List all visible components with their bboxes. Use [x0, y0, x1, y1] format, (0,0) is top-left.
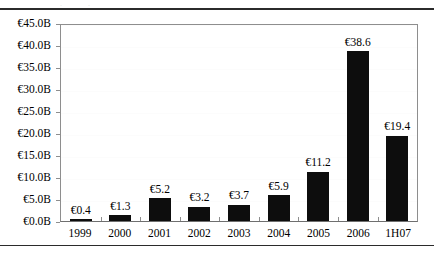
bar[interactable] [268, 195, 290, 221]
bar-slot: €5.9 [259, 25, 299, 221]
bar[interactable] [109, 215, 131, 221]
plot-area: €0.4€1.3€5.2€3.2€3.7€5.9€11.2€38.6€19.4 [60, 24, 418, 222]
x-axis-tick-label: 1999 [60, 226, 100, 242]
bar-slot: €3.2 [180, 25, 220, 221]
bottom-rule [0, 245, 434, 246]
x-axis-tick-label: 1H07 [378, 226, 418, 242]
bar-value-label: €1.3 [110, 201, 130, 213]
y-axis-tick: €20.0B [17, 127, 60, 141]
bar-value-label: €5.9 [269, 181, 289, 193]
bar-value-label: €11.2 [305, 157, 330, 169]
y-axis-tick-label: €40.0B [17, 40, 56, 52]
y-axis-tick-label: €10.0B [17, 172, 56, 184]
y-axis-tick: €15.0B [17, 149, 60, 163]
bar-slot: €5.2 [140, 25, 180, 221]
bar-chart-figure: . . €0.0B€5.0B€10.0B€15.0B€20.0B€25.0B€3… [0, 0, 434, 254]
x-axis-tick-label: 2001 [140, 226, 180, 242]
bar[interactable] [307, 172, 329, 221]
y-axis-tick: €40.0B [17, 39, 60, 53]
bar-series: €0.4€1.3€5.2€3.2€3.7€5.9€11.2€38.6€19.4 [61, 25, 417, 221]
x-axis-tick-mark [298, 217, 299, 221]
bar-slot: €0.4 [61, 25, 101, 221]
bar-slot: €11.2 [298, 25, 338, 221]
bar-slot: €3.7 [219, 25, 259, 221]
bar[interactable] [347, 51, 369, 221]
top-rule [0, 8, 434, 10]
y-axis-tick: €45.0B [17, 17, 60, 31]
x-axis-tick-label: 2002 [179, 226, 219, 242]
x-axis-tick-mark [378, 217, 379, 221]
bar[interactable] [149, 198, 171, 221]
x-axis-tick-label: 2005 [299, 226, 339, 242]
bar-value-label: €19.4 [384, 121, 410, 133]
y-axis-tick: €25.0B [17, 105, 60, 119]
y-axis-tick: €30.0B [17, 83, 60, 97]
y-axis-tick-label: €25.0B [17, 106, 56, 118]
bar-slot: €38.6 [338, 25, 378, 221]
bar[interactable] [70, 219, 92, 221]
y-axis-tick-label: €15.0B [17, 150, 56, 162]
clipped-title-artifact: . . [60, 0, 310, 7]
bar-value-label: €38.6 [345, 37, 371, 49]
x-axis-tick-mark [259, 217, 260, 221]
y-axis-tick: €5.0B [23, 193, 60, 207]
y-axis-tick-label: €30.0B [17, 84, 56, 96]
x-axis-tick-mark [101, 217, 102, 221]
y-axis-tick-label: €5.0B [23, 194, 56, 206]
bar-value-label: €5.2 [150, 184, 170, 196]
bar-value-label: €3.7 [229, 190, 249, 202]
bar-slot: €19.4 [378, 25, 418, 221]
x-axis-tick-label: 2004 [259, 226, 299, 242]
x-axis-tick-label: 2006 [338, 226, 378, 242]
bar-slot: €1.3 [101, 25, 141, 221]
x-axis: 199920002001200220032004200520061H07 [60, 226, 418, 242]
x-axis-tick-mark [140, 217, 141, 221]
bar[interactable] [188, 207, 210, 221]
bar-value-label: €3.2 [189, 192, 209, 204]
y-axis-tick-label: €0.0B [23, 216, 56, 228]
bar[interactable] [386, 136, 408, 221]
y-axis-tick: €0.0B [23, 215, 60, 229]
y-axis-tick-label: €20.0B [17, 128, 56, 140]
x-axis-tick-label: 2003 [219, 226, 259, 242]
bar[interactable] [228, 205, 250, 221]
x-axis-tick-mark [338, 217, 339, 221]
x-axis-tick-mark [219, 217, 220, 221]
y-axis: €0.0B€5.0B€10.0B€15.0B€20.0B€25.0B€30.0B… [0, 24, 60, 222]
y-axis-tick-label: €45.0B [17, 18, 56, 30]
x-axis-tick-mark [180, 217, 181, 221]
y-axis-tick: €10.0B [17, 171, 60, 185]
y-axis-tick-label: €35.0B [17, 62, 56, 74]
x-axis-tick-label: 2000 [100, 226, 140, 242]
y-axis-tick: €35.0B [17, 61, 60, 75]
bar-value-label: €0.4 [71, 205, 91, 217]
